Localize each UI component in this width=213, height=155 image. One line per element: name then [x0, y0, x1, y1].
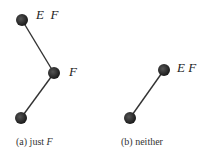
node-label: E F [177, 60, 196, 76]
figure-a [15, 14, 60, 124]
node-top [158, 64, 170, 76]
caption-variable: F [47, 136, 53, 147]
tree-diagrams [0, 0, 213, 155]
edge [22, 20, 54, 73]
caption-a: (a) just F [16, 136, 53, 147]
edge [21, 73, 54, 118]
figure-b [124, 64, 170, 124]
edge [130, 70, 164, 118]
caption-b: (b) neither [121, 136, 163, 147]
node-middle [48, 67, 60, 79]
caption-text: (a) just [16, 136, 47, 147]
node-label: E F [36, 7, 58, 23]
caption-text: (b) neither [121, 136, 163, 147]
node-bottom [124, 112, 136, 124]
node-label: F [69, 64, 77, 80]
node-top [16, 14, 28, 26]
node-bottom [15, 112, 27, 124]
